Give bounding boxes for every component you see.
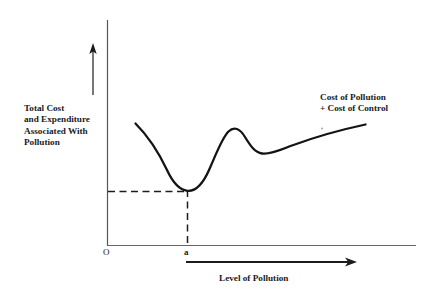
cost-curve [136, 124, 366, 191]
origin-label: O [103, 247, 110, 258]
scan-speck [321, 128, 323, 130]
curve-annotation-label: Cost of Pollution + Cost of Control [320, 92, 388, 115]
y-axis-caption: Total Cost and Expenditure Associated Wi… [24, 103, 90, 149]
y-axis-direction-arrow-icon [89, 43, 96, 95]
figure-container: Total Cost and Expenditure Associated Wi… [0, 0, 431, 295]
x-axis-caption: Level of Pollution [219, 273, 288, 284]
x-axis-direction-arrow-icon [186, 258, 357, 267]
point-a-label: a [184, 247, 189, 258]
